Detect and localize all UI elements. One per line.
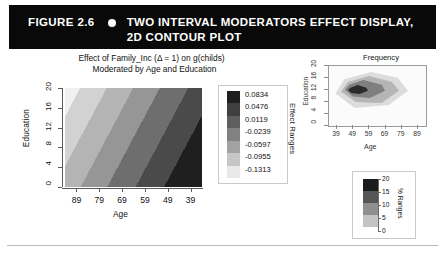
frequency-y-axis-label: Education bbox=[302, 77, 309, 105]
main-y-tick bbox=[58, 167, 62, 168]
percent-legend-swatch bbox=[363, 191, 378, 203]
frequency-y-tick bbox=[324, 125, 328, 126]
main-x-tick-label: 39 bbox=[180, 195, 202, 205]
percent-legend-tick bbox=[378, 205, 381, 206]
colorbar-swatch bbox=[227, 91, 240, 103]
percent-legend-tick bbox=[378, 218, 381, 219]
percent-legend-swatch bbox=[363, 179, 378, 191]
percent-ranges-legend-title: % Ranges bbox=[397, 188, 404, 218]
frequency-y-tick bbox=[324, 113, 328, 114]
main-plot-title: Effect of Family_Inc (Δ = 1) on g(childs… bbox=[44, 53, 259, 74]
frequency-y-tick-label: 20 bbox=[311, 60, 441, 67]
percent-legend-swatches bbox=[363, 179, 378, 227]
figure-title-line-2: 2D CONTOUR PLOT bbox=[127, 30, 414, 45]
colorbar-level-label: 0.0834 bbox=[245, 89, 285, 101]
main-plot-title-line-1: Effect of Family_Inc (Δ = 1) on g(childs… bbox=[44, 53, 259, 64]
colorbar-swatch bbox=[227, 141, 240, 153]
colorbar-swatch bbox=[227, 116, 240, 128]
main-x-tick-label: 69 bbox=[111, 195, 133, 205]
frequency-contour-panel: Frequency 048121620 394959697989 Educati… bbox=[296, 53, 441, 163]
percent-legend-tick-label: 0 bbox=[382, 228, 386, 235]
frequency-x-tick bbox=[385, 125, 386, 129]
figure-title-line-1: TWO INTERVAL MODERATORS EFFECT DISPLAY, bbox=[127, 15, 414, 30]
frequency-y-tick-label: 0 bbox=[311, 120, 441, 124]
frequency-y-tick-label: 16 bbox=[311, 72, 441, 79]
figure-canvas: Effect of Family_Inc (Δ = 1) on g(childs… bbox=[0, 49, 445, 257]
main-x-tick-label: 89 bbox=[65, 195, 87, 205]
colorbar-level-label: -0.0239 bbox=[245, 126, 285, 138]
colorbar-swatches bbox=[227, 91, 240, 178]
main-x-tick bbox=[191, 188, 192, 192]
frequency-y-tick bbox=[324, 101, 328, 102]
main-x-tick bbox=[145, 188, 146, 192]
colorbar-level-label: -0.1313 bbox=[245, 164, 285, 176]
figure-title: TWO INTERVAL MODERATORS EFFECT DISPLAY, … bbox=[127, 10, 414, 45]
colorbar-swatch bbox=[227, 153, 240, 165]
main-plot-title-line-2: Moderated by Age and Education bbox=[44, 64, 259, 75]
percent-legend-tick-label: 10 bbox=[382, 202, 389, 209]
main-x-tick bbox=[168, 188, 169, 192]
main-y-axis-label: Education bbox=[22, 109, 31, 147]
bullet-dot-icon bbox=[108, 19, 116, 27]
frequency-x-axis-label: Age bbox=[364, 143, 376, 150]
main-y-tick bbox=[58, 187, 62, 188]
colorbar-swatch bbox=[227, 103, 240, 115]
percent-legend-swatch bbox=[363, 215, 378, 227]
frequency-x-tick bbox=[352, 125, 353, 129]
percent-legend-tick-label: 15 bbox=[382, 189, 389, 196]
banner-content: FIGURE 2.6 TWO INTERVAL MODERATORS EFFEC… bbox=[9, 10, 436, 45]
footer-divider bbox=[7, 245, 438, 246]
percent-legend-tick bbox=[378, 179, 381, 180]
main-x-axis-label: Age bbox=[113, 209, 128, 219]
main-x-tick bbox=[76, 188, 77, 192]
frequency-y-tick-label: 8 bbox=[311, 96, 441, 100]
frequency-x-tick bbox=[417, 125, 418, 129]
effect-ranges-colorbar: 0.08340.04760.0119-0.0239-0.0597-0.0955-… bbox=[218, 85, 288, 184]
main-x-tick-label: 79 bbox=[88, 195, 110, 205]
frequency-x-tick-label: 89 bbox=[408, 130, 426, 137]
percent-legend-tick-label: 20 bbox=[382, 176, 389, 183]
main-x-axis-line bbox=[62, 188, 203, 189]
main-x-tick-label: 49 bbox=[157, 195, 179, 205]
colorbar-level-label: -0.0597 bbox=[245, 139, 285, 151]
percent-legend-tick-label: 5 bbox=[382, 215, 386, 222]
main-x-tick bbox=[122, 188, 123, 192]
frequency-x-tick bbox=[336, 125, 337, 129]
main-contour-panel: Effect of Family_Inc (Δ = 1) on g(childs… bbox=[18, 53, 288, 233]
percent-legend-swatch bbox=[363, 203, 378, 215]
percent-legend-tick bbox=[378, 231, 381, 232]
colorbar-level-label: 0.0476 bbox=[245, 101, 285, 113]
figure-header-banner: FIGURE 2.6 TWO INTERVAL MODERATORS EFFEC… bbox=[9, 5, 436, 49]
colorbar-level-label: -0.0955 bbox=[245, 151, 285, 163]
main-x-tick bbox=[99, 188, 100, 192]
frequency-y-tick-label: 4 bbox=[311, 108, 441, 112]
colorbar-labels: 0.08340.04760.0119-0.0239-0.0597-0.0955-… bbox=[245, 89, 285, 179]
figure-number: FIGURE 2.6 bbox=[28, 10, 95, 30]
colorbar-swatch bbox=[227, 128, 240, 140]
main-x-tick-label: 59 bbox=[134, 195, 156, 205]
percent-legend-tick bbox=[378, 192, 381, 193]
main-y-tick bbox=[58, 147, 62, 148]
colorbar-level-label: 0.0119 bbox=[245, 114, 285, 126]
percent-ranges-legend: 20151050 % Ranges bbox=[352, 171, 416, 239]
colorbar-swatch bbox=[227, 166, 240, 178]
frequency-x-tick bbox=[368, 125, 369, 129]
frequency-x-tick bbox=[401, 125, 402, 129]
frequency-y-tick-label: 12 bbox=[311, 84, 441, 91]
